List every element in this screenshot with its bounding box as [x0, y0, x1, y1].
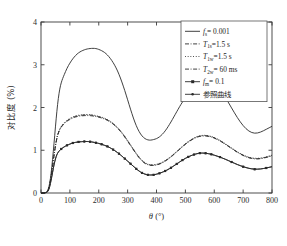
x-tick-label: 300 [122, 196, 134, 205]
series-marker [153, 174, 155, 176]
series-marker [101, 143, 103, 145]
legend-label: T1s=1.5 s [203, 40, 230, 50]
x-tick-label: 400 [151, 196, 163, 205]
series-marker [205, 152, 207, 154]
y-tick-label: 0 [33, 189, 37, 198]
y-tick-label: 4 [33, 18, 37, 27]
series-marker [60, 148, 62, 150]
series-marker [112, 149, 114, 151]
series-marker [265, 167, 267, 169]
legend-label: fs= 0.001 [203, 27, 230, 37]
x-tick-label: 200 [93, 196, 105, 205]
series-marker [78, 141, 80, 143]
series-marker [254, 168, 256, 170]
legend-label: 参照曲线 [203, 90, 232, 99]
y-tick-label: 1 [33, 146, 37, 155]
chart-figure: 010020030040050060070080001234θ (°)对比度 (… [0, 0, 287, 246]
x-tick-label: 100 [64, 196, 76, 205]
series-marker [107, 146, 109, 148]
series-marker [72, 142, 74, 144]
y-tick-label: 2 [33, 104, 37, 113]
series-marker [147, 174, 149, 176]
series-marker [164, 170, 166, 172]
x-tick-label: 800 [266, 196, 278, 205]
series-marker [158, 172, 160, 174]
series-marker [83, 141, 85, 143]
series-marker [210, 153, 212, 155]
series-marker [141, 172, 143, 174]
legend[interactable]: fs= 0.001T1s=1.5 sT1w=1.5 sT2w= 60 msfm=… [181, 21, 267, 102]
y-tick-label: 3 [33, 61, 37, 70]
x-axis-title: θ (°) [149, 211, 165, 221]
legend-marker [191, 80, 194, 83]
series-marker [193, 154, 195, 156]
series-marker [199, 152, 201, 154]
series-marker [89, 141, 91, 143]
series-marker [95, 142, 97, 144]
x-tick-label: 0 [39, 196, 43, 205]
legend-marker [191, 93, 194, 96]
series-marker [242, 166, 244, 168]
series-marker [176, 163, 178, 165]
y-axis-title: 对比度 (%) [6, 85, 16, 129]
series-marker [124, 158, 126, 160]
series-marker [231, 161, 233, 163]
series-marker [130, 163, 132, 165]
x-tick-label: 700 [237, 196, 249, 205]
x-tick-label: 600 [208, 196, 220, 205]
series-marker [118, 153, 120, 155]
series-marker [219, 156, 221, 158]
x-tick-label: 500 [179, 196, 191, 205]
series-marker [182, 159, 184, 161]
series-marker [187, 156, 189, 158]
series-marker [170, 167, 172, 169]
contrast-vs-theta-plot: 010020030040050060070080001234θ (°)对比度 (… [0, 0, 287, 246]
series-marker [66, 144, 68, 146]
series-marker [135, 168, 137, 170]
